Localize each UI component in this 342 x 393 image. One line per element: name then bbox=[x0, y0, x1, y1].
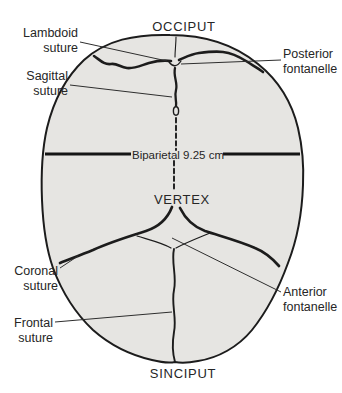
fetal-skull-diagram: OCCIPUT VERTEX SINCIPUT Biparietal 9.25 … bbox=[0, 0, 342, 393]
posterior-fontanelle-label-line1: Posterior bbox=[283, 47, 333, 61]
sagittal-suture-ossicle bbox=[173, 107, 178, 115]
anterior-fontanelle-label-line2: fontanelle bbox=[283, 300, 337, 314]
frontal-label-line2: suture bbox=[18, 331, 53, 345]
fetal-skull-svg: OCCIPUT VERTEX SINCIPUT Biparietal 9.25 … bbox=[0, 0, 342, 393]
coronal-label-line2: suture bbox=[23, 279, 58, 293]
sagittal-label-line2: suture bbox=[33, 84, 68, 98]
coronal-label-line1: Coronal bbox=[14, 264, 58, 278]
biparietal-measurement-label: Biparietal 9.25 cm bbox=[132, 149, 224, 161]
posterior-fontanelle-label-line2: fontanelle bbox=[283, 62, 337, 76]
frontal-label-line1: Frontal bbox=[14, 316, 53, 330]
sinciput-label: SINCIPUT bbox=[150, 366, 216, 381]
sagittal-label-line1: Sagittal bbox=[26, 69, 68, 83]
anterior-fontanelle-label-line1: Anterior bbox=[283, 285, 327, 299]
vertex-label: VERTEX bbox=[154, 192, 210, 207]
lambdoid-label-line1: Lambdoid bbox=[23, 26, 78, 40]
occiput-label: OCCIPUT bbox=[152, 19, 215, 34]
lambdoid-label-line2: suture bbox=[43, 41, 78, 55]
